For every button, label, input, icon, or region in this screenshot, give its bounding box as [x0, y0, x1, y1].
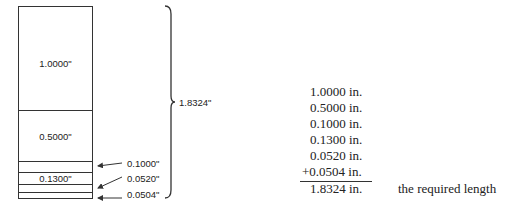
callout-0-1000: 0.1000" [127, 158, 159, 169]
sum-row: 0.1300 in. [310, 132, 362, 148]
sum-row: 0.5000 in. [310, 100, 362, 116]
total-length-label: 1.8324" [179, 97, 211, 108]
sum-row: 0.1000 in. [310, 116, 362, 132]
required-length-note: the required length [398, 181, 496, 197]
callout-arrows [0, 0, 516, 211]
sum-row: 1.0000 in. [310, 84, 362, 100]
sum-row: 0.0520 in. [310, 148, 362, 164]
total-brace-icon [165, 6, 175, 198]
callout-0-0504: 0.0504" [127, 189, 159, 200]
sum-total: 1.8324 in. [310, 181, 362, 197]
sum-row: +0.0504 in. [302, 164, 362, 180]
callout-0-0520: 0.0520" [127, 173, 159, 184]
